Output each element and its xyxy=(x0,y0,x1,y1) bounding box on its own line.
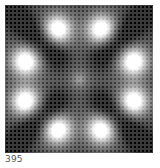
pattern-thumbnail[interactable] xyxy=(5,5,153,153)
image-caption: 395 xyxy=(5,154,23,165)
moire-pattern-image xyxy=(5,5,153,153)
